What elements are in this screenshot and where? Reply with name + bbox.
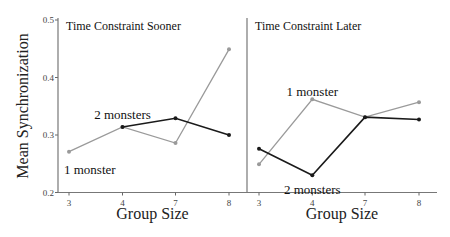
- x-tick-label: 3: [257, 198, 262, 208]
- data-point: [417, 117, 421, 121]
- series-line-2-monsters: [259, 117, 419, 175]
- data-point: [67, 150, 71, 154]
- series-annotation: 1 monster: [286, 84, 338, 99]
- x-axis-title: Group Size: [116, 205, 188, 223]
- data-point: [257, 162, 261, 166]
- y-axis-title: Mean Synchronization: [14, 33, 32, 178]
- data-point: [417, 100, 421, 104]
- y-tick-label: 0.5: [43, 15, 55, 25]
- series-annotation: 1 monster: [64, 162, 116, 177]
- series-annotation: 2 monsters: [94, 107, 151, 122]
- x-tick-label: 8: [417, 198, 422, 208]
- series-line-1-monster: [259, 99, 419, 164]
- data-point: [363, 115, 367, 119]
- y-tick-label: 0.4: [43, 73, 55, 83]
- x-tick-label: 8: [227, 198, 232, 208]
- chart-panels: 3478Time Constraint Sooner1 monster2 mon…: [58, 18, 437, 208]
- panel-title: Time Constraint Sooner: [66, 19, 181, 33]
- line-chart: Mean Synchronization 0.20.30.40.5 3478Ti…: [0, 0, 450, 237]
- series-annotation: 2 monsters: [284, 182, 341, 197]
- data-point: [227, 133, 231, 137]
- panel-title: Time Constraint Later: [255, 19, 361, 33]
- data-point: [174, 116, 178, 120]
- panel-later: 3478Time Constraint Later1 monster2 mons…: [247, 18, 437, 208]
- y-axis-title-text: Mean Synchronization: [14, 33, 32, 178]
- data-point: [310, 173, 314, 177]
- y-axis: 0.20.30.40.5: [43, 15, 58, 198]
- data-point: [227, 47, 231, 51]
- x-axis-titles: Group SizeGroup Size: [116, 205, 378, 223]
- y-tick-label: 0.3: [43, 130, 55, 140]
- x-axis-title: Group Size: [306, 205, 378, 223]
- x-tick-label: 3: [67, 198, 72, 208]
- data-point: [121, 125, 125, 129]
- data-point: [257, 147, 261, 151]
- y-tick-label: 0.2: [43, 188, 54, 198]
- data-point: [174, 141, 178, 145]
- series-line-1-monster: [69, 49, 229, 151]
- panel-sooner: 3478Time Constraint Sooner1 monster2 mon…: [58, 18, 247, 208]
